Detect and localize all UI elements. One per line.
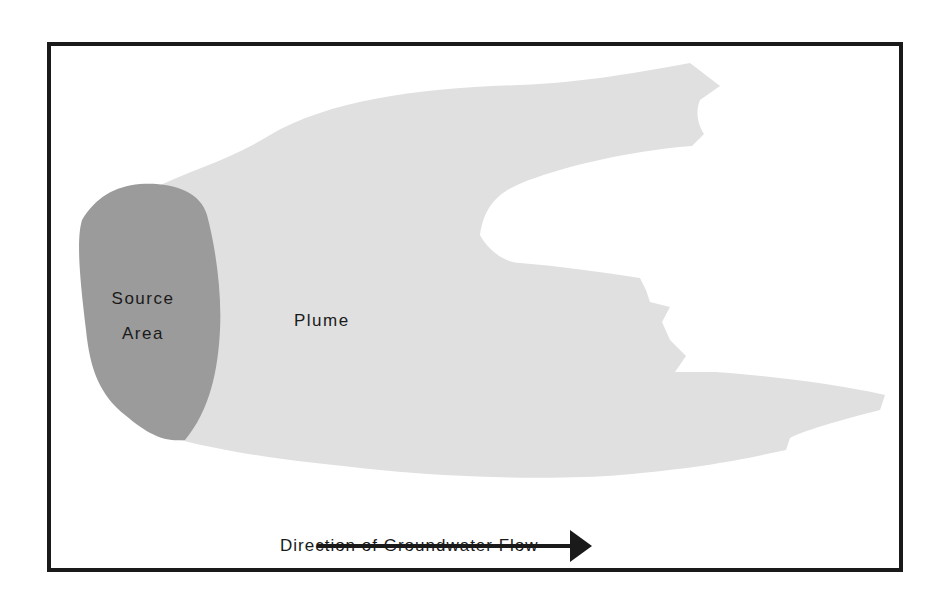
flow-direction-label: Direction of Groundwater Flow — [280, 536, 539, 556]
plume-label: Plume — [294, 311, 350, 331]
source-area-shape — [79, 184, 220, 441]
source-area-label-line1: Source — [92, 285, 194, 312]
source-area-label-line2: Area — [92, 320, 194, 347]
flow-arrow-head — [570, 530, 592, 562]
plume-shape — [150, 63, 885, 478]
